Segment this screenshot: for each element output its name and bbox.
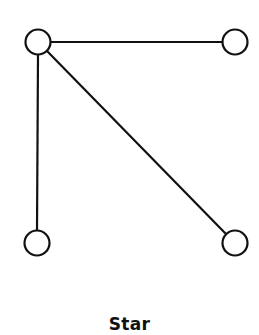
node-bottom-left xyxy=(25,231,50,256)
node-hub xyxy=(26,30,51,55)
diagram-title: Star xyxy=(0,314,259,334)
node-bottom-right xyxy=(223,231,248,256)
node-top-right xyxy=(223,30,248,55)
edge-hub-bottom-left xyxy=(37,55,38,230)
star-topology-diagram xyxy=(0,0,259,335)
edges xyxy=(37,42,226,234)
edge-hub-bottom-right xyxy=(47,51,226,234)
